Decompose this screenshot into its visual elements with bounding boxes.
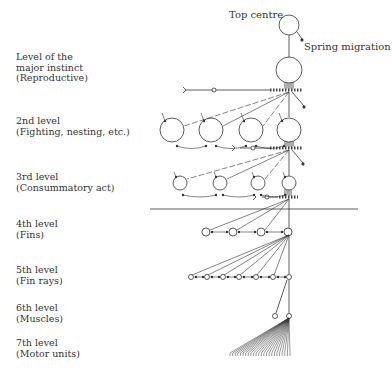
level-3-node bbox=[213, 176, 227, 190]
hierarchy-diagram bbox=[0, 0, 392, 373]
level-3-node bbox=[282, 176, 296, 190]
motor-unit-fibre bbox=[246, 318, 289, 353]
inhibition-block-1 bbox=[270, 89, 302, 92]
level-2-node bbox=[277, 118, 301, 142]
motor-unit-fibre bbox=[253, 318, 289, 353]
major-instinct-node bbox=[276, 57, 302, 83]
level-5-node bbox=[287, 275, 292, 280]
level-4-node bbox=[202, 228, 210, 236]
muscle-node bbox=[273, 314, 278, 319]
level-5-node bbox=[205, 275, 210, 280]
level-2-node bbox=[160, 118, 184, 142]
level-5-node bbox=[189, 275, 194, 280]
level-4-node bbox=[284, 228, 292, 236]
level-5-node bbox=[271, 275, 276, 280]
level-2-node bbox=[199, 118, 223, 142]
muscle-node bbox=[287, 314, 292, 319]
level-5-node bbox=[254, 275, 259, 280]
level-4-node bbox=[229, 228, 237, 236]
motor-unit-fibre bbox=[261, 318, 289, 353]
level-3-node bbox=[173, 176, 187, 190]
level-4-node bbox=[257, 228, 265, 236]
level-2-node bbox=[239, 118, 263, 142]
motor-unit-fibre bbox=[269, 318, 289, 353]
level-5-node bbox=[221, 275, 226, 280]
level-3-node bbox=[251, 176, 265, 190]
level-5-node bbox=[237, 275, 242, 280]
motor-unit-fibre bbox=[289, 318, 290, 353]
top-centre-node bbox=[279, 15, 299, 35]
